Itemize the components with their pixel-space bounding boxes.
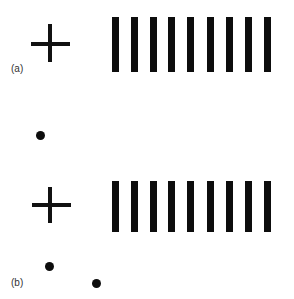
fixation-cross-horizontal (32, 203, 71, 207)
fixation-cross-horizontal (31, 42, 70, 46)
grating-bar (187, 17, 194, 72)
grating-bar (150, 17, 157, 72)
grating-bar (187, 181, 194, 232)
panel-label-b: (b) (11, 278, 23, 288)
grating-bar (131, 181, 138, 232)
panel-label-a: (a) (11, 64, 23, 74)
grating-bar (207, 181, 214, 232)
grating-bar (264, 181, 271, 232)
grating-bar (150, 181, 157, 232)
grating-bar (264, 17, 271, 72)
grating-bar (226, 181, 233, 232)
dot (36, 131, 45, 140)
grating-bar (245, 17, 252, 72)
grating-bar (168, 17, 175, 72)
grating-bar (131, 17, 138, 72)
grating-bar (207, 17, 214, 72)
grating-bar (112, 181, 119, 232)
grating-bar (112, 17, 119, 72)
grating-bar (168, 181, 175, 232)
dot (45, 262, 54, 271)
grating-bar (226, 17, 233, 72)
dot (92, 279, 101, 288)
grating-bar (245, 181, 252, 232)
